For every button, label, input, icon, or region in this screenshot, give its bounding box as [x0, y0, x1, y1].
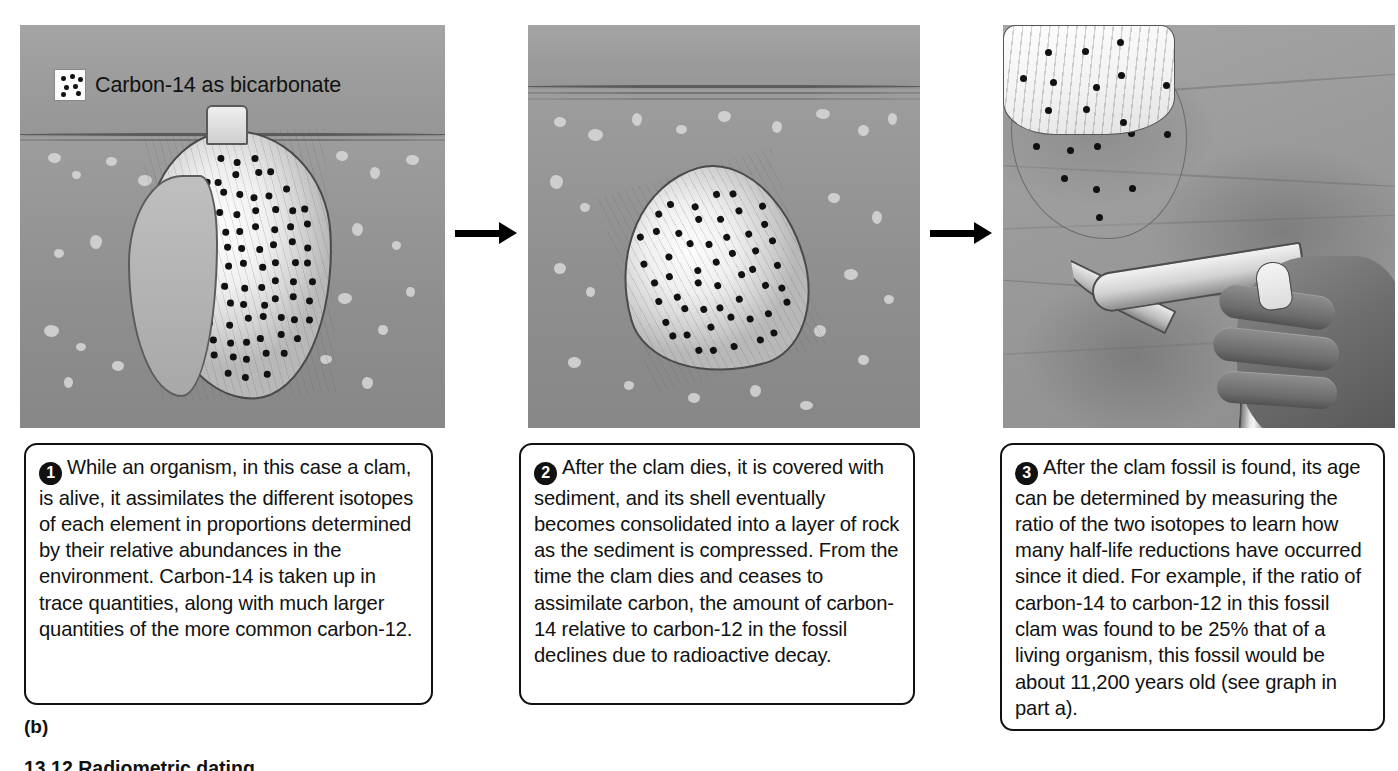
legend: Carbon-14 as bicarbonate	[55, 70, 341, 100]
step-badge-3: 3	[1015, 462, 1038, 485]
caption-text-1: 1While an organism, in this case a clam,…	[39, 454, 418, 642]
panel-living-clam: Carbon-14 as bicarbonate	[20, 25, 445, 428]
part-label: (b)	[24, 716, 48, 738]
clam-siphon	[206, 105, 248, 145]
caption-body-1: While an organism, in this case a clam, …	[39, 456, 413, 640]
clam-fossil	[1003, 25, 1193, 240]
illustration-fossil-excavation	[1003, 25, 1395, 428]
carbon14-dots-swatch-icon	[55, 70, 85, 100]
figure-caption: 13.12 Radiometric dating	[24, 757, 255, 771]
legend-label: Carbon-14 as bicarbonate	[95, 73, 341, 98]
step-badge-1: 1	[39, 462, 62, 485]
caption-body-2: After the clam dies, it is covered with …	[534, 456, 899, 666]
flow-arrow-2-to-3	[930, 222, 992, 244]
figure-radiometric-dating: Carbon-14 as bicarbonate	[0, 0, 1398, 771]
caption-box-2: 2After the clam dies, it is covered with…	[519, 443, 915, 705]
caption-text-2: 2After the clam dies, it is covered with…	[534, 454, 900, 669]
caption-box-3: 3After the clam fossil is found, its age…	[1000, 443, 1385, 731]
step-badge-2: 2	[534, 462, 557, 485]
panel-buried-clam	[528, 25, 920, 428]
illustration-buried-clam	[528, 25, 920, 428]
flow-arrow-1-to-2	[455, 222, 517, 244]
caption-box-1: 1While an organism, in this case a clam,…	[24, 443, 433, 705]
hand	[1211, 228, 1395, 428]
caption-body-3: After the clam fossil is found, its age …	[1015, 456, 1362, 719]
caption-text-3: 3After the clam fossil is found, its age…	[1015, 454, 1370, 721]
panel-fossil-excavation	[1003, 25, 1395, 428]
